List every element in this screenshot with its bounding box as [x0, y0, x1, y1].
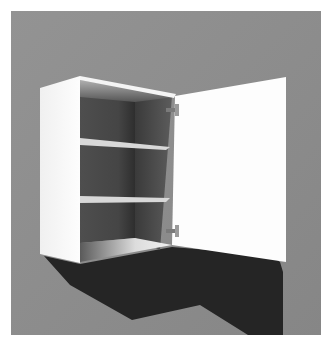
cabinet-render [0, 0, 332, 345]
cabinet-door [172, 77, 286, 262]
cabinet-side-panel [40, 76, 80, 263]
cabinet-back-wall [80, 96, 135, 243]
